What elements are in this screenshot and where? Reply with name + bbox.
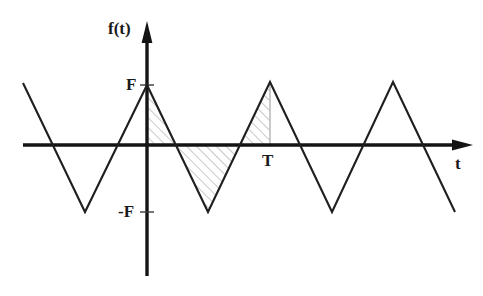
y-axis-label: f(t) <box>108 20 131 37</box>
waveform-polyline <box>23 82 455 212</box>
x-axis-label: t <box>455 155 461 172</box>
triangular-waveform-plot <box>0 0 483 296</box>
x-tick-label-T: T <box>262 152 273 169</box>
y-axis <box>142 21 153 276</box>
y-tick-label-F: F <box>126 76 136 93</box>
y-tick-label-negative-F: -F <box>118 203 134 220</box>
figure-canvas: f(t) F -F T t <box>0 0 483 296</box>
shaded-area-negative <box>177 145 239 212</box>
